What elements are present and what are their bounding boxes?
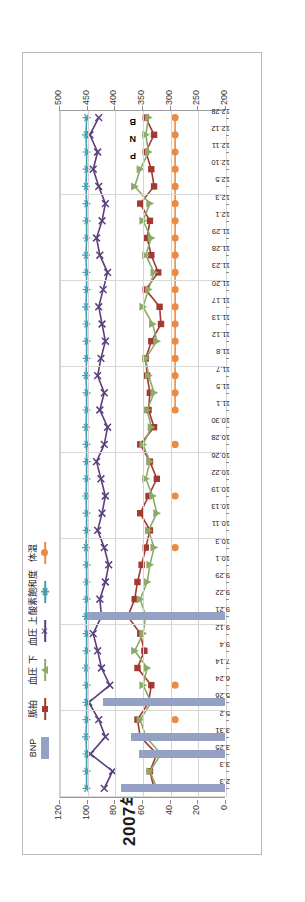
rotated-chart-stage: 2007年 BNP脈拍血圧 下血圧 上✕酸素飽和度✱体温 02040608010… bbox=[23, 54, 261, 854]
page-root: 2007年 BNP脈拍血圧 下血圧 上✕酸素飽和度✱体温 02040608010… bbox=[0, 0, 305, 902]
axis-x-tickmark bbox=[226, 513, 229, 514]
axis-x-date-label: 10.22 bbox=[211, 467, 230, 476]
axis-right-tick-label: 450 bbox=[81, 89, 91, 104]
axis-x-tickmark bbox=[226, 771, 229, 772]
axis-x-tickmark bbox=[226, 650, 229, 651]
gridline-h bbox=[198, 111, 199, 797]
axis-x-date-label: 9.22 bbox=[215, 588, 230, 597]
legend-swatch-asterisk-icon: ✱ bbox=[40, 580, 49, 604]
gridline-h bbox=[60, 111, 61, 797]
legend-item-0[interactable]: BNP bbox=[29, 735, 49, 761]
legend-item-2[interactable]: 血圧 下 bbox=[29, 657, 49, 683]
axis-x-date-label: 9.29 bbox=[215, 571, 230, 580]
datapoint-triangle-marker bbox=[153, 337, 161, 345]
datapoint-square-marker bbox=[147, 217, 153, 223]
axis-left-tick-label: 20 bbox=[191, 805, 201, 815]
legend-label: 酸素飽和度 bbox=[29, 569, 38, 614]
datapoint-triangle-marker bbox=[146, 199, 154, 207]
datapoint-square-marker bbox=[151, 183, 157, 189]
axis-x-date-label: 9.4 bbox=[220, 639, 230, 648]
gridline-v bbox=[60, 194, 225, 195]
axis-x-tickmark bbox=[226, 668, 229, 669]
datapoint-circle-marker bbox=[171, 492, 178, 499]
axis-x-tickmark bbox=[226, 427, 229, 428]
axis-x-tickmark bbox=[226, 736, 229, 737]
bnp-bar bbox=[139, 750, 225, 758]
datapoint-circle-marker bbox=[171, 251, 178, 258]
axis-left-tick-label: 80 bbox=[108, 805, 118, 815]
axis-x-date-label: 11.29 bbox=[212, 227, 230, 236]
axis-x-date-label: 11.5 bbox=[216, 381, 230, 390]
axis-x-date-label: 12.28 bbox=[211, 106, 230, 115]
datapoint-square-marker bbox=[154, 475, 160, 481]
annotation-n: N bbox=[130, 134, 137, 144]
axis-right-tick-label: 500 bbox=[53, 89, 63, 104]
axis-left-tickmark bbox=[87, 800, 88, 804]
gridline-v bbox=[60, 624, 225, 625]
axis-x-dates: 2.33.33.253.315.25.266.247.149.49.129.21… bbox=[226, 110, 260, 798]
datapoint-x-marker bbox=[102, 733, 109, 740]
axis-x-tickmark bbox=[226, 255, 229, 256]
datapoint-triangle-marker bbox=[150, 543, 158, 551]
datapoint-circle-marker bbox=[171, 131, 178, 138]
datapoint-circle-marker bbox=[171, 716, 178, 723]
legend-item-5[interactable]: 体温 bbox=[29, 540, 49, 566]
datapoint-circle-marker bbox=[171, 389, 178, 396]
axis-x-tickmark bbox=[226, 358, 229, 359]
chart-plot-wrapper: 2007年 BNP脈拍血圧 下血圧 上✕酸素飽和度✱体温 02040608010… bbox=[23, 54, 261, 854]
axis-right: 200250300350400450500 bbox=[59, 56, 225, 110]
axis-x-date-label: 11.28 bbox=[212, 244, 230, 253]
axis-x-tickmark bbox=[226, 633, 229, 634]
axis-x-tickmark bbox=[226, 444, 229, 445]
axis-x-tickmark bbox=[226, 547, 229, 548]
axis-x-tickmark bbox=[226, 272, 229, 273]
datapoint-circle-marker bbox=[171, 681, 178, 688]
axis-x-date-label: 12.3 bbox=[215, 192, 230, 201]
axis-x-tickmark bbox=[226, 341, 229, 342]
plot-area: BNP bbox=[59, 110, 225, 798]
axis-x-date-label: 11.20 bbox=[212, 278, 230, 287]
axis-x-date-label: 11.8 bbox=[216, 347, 230, 356]
bnp-bar bbox=[87, 612, 225, 620]
legend-item-4[interactable]: 酸素飽和度✱ bbox=[29, 579, 49, 605]
datapoint-circle-marker bbox=[171, 234, 178, 241]
axis-x-date-label: 3.3 bbox=[220, 760, 230, 769]
datapoint-x-marker bbox=[101, 785, 108, 792]
axis-x-date-label: 9.12 bbox=[215, 622, 230, 631]
gridline-v bbox=[60, 538, 225, 539]
datapoint-square-marker bbox=[134, 578, 140, 584]
axis-right-tick-label: 300 bbox=[164, 89, 174, 104]
datapoint-circle-marker bbox=[171, 148, 178, 155]
axis-x-date-label: 11.23 bbox=[212, 261, 230, 270]
axis-x-date-label: 11.1 bbox=[216, 399, 230, 408]
datapoint-circle-marker bbox=[171, 182, 178, 189]
bnp-bar bbox=[103, 698, 225, 706]
datapoint-circle-marker bbox=[171, 406, 178, 413]
axis-x-tickmark bbox=[226, 478, 229, 479]
axis-x-date-label: 2.3 bbox=[220, 777, 230, 786]
legend-label: 血圧 上 bbox=[29, 616, 38, 646]
axis-left-tickmark bbox=[170, 800, 171, 804]
datapoint-triangle-marker bbox=[153, 509, 161, 517]
datapoint-circle-marker bbox=[171, 113, 178, 120]
datapoint-circle-marker bbox=[171, 268, 178, 275]
axis-x-date-label: 12.1 bbox=[215, 209, 230, 218]
axis-x-date-label: 10.11 bbox=[212, 519, 230, 528]
datapoint-circle-marker bbox=[171, 337, 178, 344]
datapoint-circle-marker bbox=[171, 544, 178, 551]
legend-swatch-x-icon: ✕ bbox=[40, 619, 49, 643]
axis-x-date-label: 10.13 bbox=[211, 502, 230, 511]
axis-x-tickmark bbox=[226, 220, 229, 221]
axis-x-tickmark bbox=[226, 702, 229, 703]
datapoint-circle-marker bbox=[171, 303, 178, 310]
datapoint-triangle-marker bbox=[131, 646, 139, 654]
gridline-v bbox=[60, 710, 225, 711]
axis-x-date-label: 7.14 bbox=[215, 657, 230, 666]
legend-item-3[interactable]: 血圧 上✕ bbox=[29, 618, 49, 644]
axis-x-tickmark bbox=[226, 117, 229, 118]
axis-x-date-label: 12.5 bbox=[215, 175, 230, 184]
axis-x-date-label: 10.28 bbox=[211, 433, 230, 442]
gridline-h bbox=[171, 111, 172, 797]
legend-item-1[interactable]: 脈拍 bbox=[29, 696, 49, 722]
axis-x-tickmark bbox=[226, 152, 229, 153]
